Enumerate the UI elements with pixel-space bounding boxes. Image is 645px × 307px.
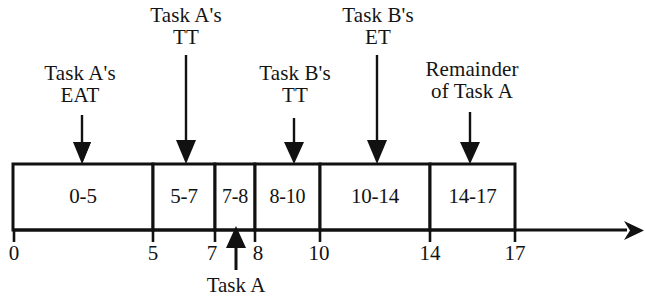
annotation-label-tt-a: Task A's TT — [116, 4, 256, 49]
annotation-label-et-b: Task B's ET — [308, 4, 448, 49]
annotation-line2: EAT — [10, 84, 150, 106]
annotation-label-tt-b: Task B's TT — [225, 62, 365, 107]
axis-tick-label-5: 5 — [133, 243, 173, 264]
annotation-line1: Task A's — [44, 61, 115, 85]
axis-tick-label-0: 0 — [0, 243, 34, 264]
timeline-diagram: Task A's EAT Task A's TT Task B's TT Tas… — [0, 0, 645, 307]
annotation-arrow-down-tt-a — [176, 55, 196, 164]
axis-tick-label-10: 10 — [297, 243, 341, 264]
annotation-arrow-down-remainder-a — [460, 112, 480, 164]
annotation-label-eat-a: Task A's EAT — [10, 62, 150, 107]
annotation-line1: Remainder — [425, 57, 518, 81]
annotation-line2: TT — [225, 84, 365, 106]
annotation-line1: Task B's — [342, 3, 413, 27]
segment-label-10-14: 10-14 — [320, 186, 430, 207]
annotation-line2: ET — [308, 26, 448, 48]
annotation-arrow-down-tt-b — [284, 118, 304, 164]
annotation-label-remainder-a: Remainder of Task A — [394, 58, 550, 103]
segment-label-5-7: 5-7 — [153, 186, 215, 207]
axis-tick-label-8: 8 — [243, 243, 273, 264]
axis-tick-label-14: 14 — [408, 243, 452, 264]
segment-label-8-10: 8-10 — [254, 186, 321, 206]
annotation-arrow-down-et-b — [367, 55, 387, 164]
annotation-line2: of Task A — [394, 80, 550, 102]
annotation-line1: Task B's — [259, 61, 330, 85]
axis-tick-label-7: 7 — [197, 243, 227, 264]
segment-label-7-8: 7-8 — [214, 186, 256, 206]
annotation-label-task-a-arrival: Task A — [166, 275, 306, 296]
annotation-arrow-down-eat-a — [73, 115, 91, 164]
segment-label-0-5: 0-5 — [13, 186, 153, 207]
segment-label-14-17: 14-17 — [430, 186, 515, 207]
annotation-line2: TT — [116, 26, 256, 48]
annotation-line1: Task A's — [150, 3, 221, 27]
axis-tick-label-17: 17 — [493, 243, 537, 264]
